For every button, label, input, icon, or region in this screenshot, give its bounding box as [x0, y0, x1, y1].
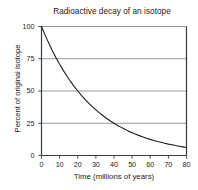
- x-tick-label: 30: [86, 160, 106, 169]
- x-tick-label: 50: [122, 160, 142, 169]
- x-tick-label: 0: [32, 160, 52, 169]
- y-tick-label: 0: [15, 151, 35, 160]
- x-tick-label: 70: [158, 160, 178, 169]
- y-tick-label: 50: [15, 86, 35, 95]
- x-tick-label: 60: [140, 160, 160, 169]
- y-tick-label: 75: [15, 54, 35, 63]
- x-tick-label: 40: [104, 160, 124, 169]
- chart-figure: Radioactive decay of an isotope Percent …: [0, 0, 198, 190]
- gridlines: [42, 27, 187, 124]
- decay-curve: [42, 27, 187, 148]
- x-tick-label: 10: [50, 160, 70, 169]
- axis-ticks: [38, 27, 186, 159]
- y-tick-label: 25: [15, 119, 35, 128]
- x-tick-label: 80: [177, 160, 197, 169]
- x-tick-label: 20: [68, 160, 88, 169]
- y-tick-label: 100: [15, 22, 35, 31]
